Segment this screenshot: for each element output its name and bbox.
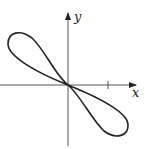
x-axis-label: x (132, 85, 140, 100)
curve-lobe-upper-left (8, 33, 68, 85)
curve-figure: y x (0, 0, 154, 149)
curve-lobe-lower-right (68, 85, 128, 136)
y-axis-label: y (73, 9, 82, 24)
